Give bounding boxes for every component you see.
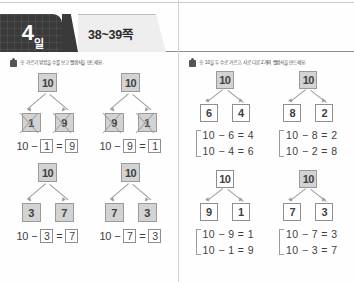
equation-row: 10 − 7 = 3 [100,229,162,243]
bond-top-node: 10 [299,170,317,188]
bullet-icon [189,60,196,67]
top-rule [0,2,354,3]
equation-line[interactable]: 10 − 1 = 9 [203,242,254,258]
eq-result-box[interactable]: 9 [65,139,78,153]
equation-line[interactable]: 10 − 6 = 4 [203,127,254,143]
eq-subtrahend-box[interactable]: 9 [123,139,136,153]
number-bond-tree: 10 7 3 [270,170,346,224]
left-instruction: ※ 가르기 방법을 수를 보고 뺄셈식을 만드세요. [0,52,178,67]
workbook-page: 4 일 38~39쪽 ※ 가르기 방법을 수를 보고 뺄셈식을 만드세요. 10 [0,0,354,282]
equation-line[interactable]: 10 − 9 = 1 [203,226,254,242]
bond-right-node[interactable]: 2 [315,104,333,122]
bond-branch-right [49,184,68,200]
eq-subtrahend-box[interactable]: 1 [40,139,53,153]
problem-group: 10 8 2 10 − 8 = 2 10 − 2 = 8 [267,71,351,160]
equation-pair: 10 − 6 = 4 10 − 4 = 6 [196,127,254,160]
equation-row: 10 − 9 = 1 [100,139,162,153]
number-bond-tree: 10 8 2 [270,71,346,125]
eq-equals: = [138,230,146,242]
eq-subtrahend-box[interactable]: 3 [40,229,53,243]
right-problem-grid: 10 6 4 10 − 6 = 4 10 − 4 = 6 10 [179,67,354,258]
bond-left-node[interactable]: 7 [283,203,301,221]
tab-day-unit: 일 [34,39,44,52]
equation-row: 10 − 3 = 7 [17,229,79,243]
bond-right-node[interactable]: 4 [232,104,250,122]
right-instruction-text: ※ 10을 두 수로 가르고, 서로 다른 2개의 뺄셈식을 만드세요. [199,59,306,67]
bond-left-node: 9 [105,113,124,132]
bond-right-node[interactable]: 3 [315,203,333,221]
equation-line[interactable]: 10 − 3 = 7 [286,242,337,258]
bond-right-node: 1 [138,113,157,132]
bond-top-node: 10 [38,73,57,92]
left-instruction-text: ※ 가르기 방법을 수를 보고 뺄셈식을 만드세요. [20,59,103,67]
tab-page-range[interactable]: 38~39쪽 [78,14,148,52]
left-problem-grid: 10 1 9 10 − [0,67,178,243]
bond-arrow-right-icon [60,197,66,203]
bond-arrow-right-icon [143,107,149,113]
eq-equals: = [55,230,63,242]
eq-minuend: 10 [100,140,112,152]
left-panel: ※ 가르기 방법을 수를 보고 뺄셈식을 만드세요. 10 1 9 [0,52,178,282]
bond-top-node: 10 [216,170,234,188]
tab-day-slant [62,14,78,52]
equation-pair: 10 − 8 = 2 10 − 2 = 8 [279,127,337,160]
eq-result-box[interactable]: 3 [148,229,161,243]
problem-item: 10 7 3 10 − 7 = 3 [89,163,172,243]
number-bond-tree: 10 9 1 [91,73,171,135]
bond-arrow-right-icon [143,197,149,203]
equation-line[interactable]: 10 − 4 = 6 [203,143,254,159]
bullet-icon [10,60,17,67]
bond-left-node[interactable]: 6 [200,104,218,122]
equation-pair: 10 − 7 = 3 10 − 3 = 7 [279,226,337,259]
bond-top-node: 10 [121,163,140,182]
problem-item: 10 1 9 10 − [6,73,89,153]
bond-right-node[interactable]: 1 [232,203,250,221]
problem-item: 10 9 1 10 − [89,73,172,153]
tab-page-range-slant [148,14,166,52]
bond-right-node: 7 [55,203,74,222]
bond-left-node: 3 [22,203,41,222]
bond-arrow-left-icon [27,107,33,113]
eq-operator: − [113,230,121,242]
eq-result-box[interactable]: 1 [148,139,161,153]
bond-branch-right [132,94,151,110]
number-bond-tree: 10 7 3 [91,163,171,225]
bond-top-node: 10 [216,71,234,89]
bond-arrow-left-icon [110,197,116,203]
bond-branch-right [132,184,151,200]
bond-arrow-right-icon [60,107,66,113]
bond-left-node: 7 [105,203,124,222]
bond-left-node[interactable]: 8 [283,104,301,122]
bond-arrow-right-icon [237,98,243,104]
bond-left-node[interactable]: 9 [200,203,218,221]
equation-line[interactable]: 10 − 7 = 3 [286,226,337,242]
eq-operator: − [30,230,38,242]
bond-top-node: 10 [38,163,57,182]
bond-right-node: 3 [138,203,157,222]
right-panel: ※ 10을 두 수로 가르고, 서로 다른 2개의 뺄셈식을 만드세요. 10 … [179,52,354,282]
equation-row: 10 − 1 = 9 [17,139,79,153]
eq-minuend: 10 [17,230,29,242]
equation-line[interactable]: 10 − 2 = 8 [286,143,337,159]
equation-pair: 10 − 9 = 1 10 − 1 = 9 [196,226,254,259]
bond-arrow-left-icon [110,107,116,113]
tab-day[interactable]: 4 일 [0,14,62,52]
eq-equals: = [138,140,146,152]
problem-group: 10 6 4 10 − 6 = 4 10 − 4 = 6 [183,71,267,160]
bond-top-node: 10 [121,73,140,92]
bond-top-node: 10 [299,71,317,89]
eq-subtrahend-box[interactable]: 7 [123,229,136,243]
bond-arrow-left-icon [27,197,33,203]
eq-operator: − [30,140,38,152]
bond-arrow-left-icon [205,98,211,104]
eq-operator: − [113,140,121,152]
problem-item: 10 3 7 10 − 3 = 7 [6,163,89,243]
equation-line[interactable]: 10 − 8 = 2 [286,127,337,143]
number-bond-tree: 10 9 1 [187,170,263,224]
number-bond-tree: 10 1 9 [8,73,88,135]
eq-result-box[interactable]: 7 [65,229,78,243]
number-bond-tree: 10 3 7 [8,163,88,225]
right-instruction: ※ 10을 두 수로 가르고, 서로 다른 2개의 뺄셈식을 만드세요. [179,52,354,67]
bond-left-node: 1 [22,113,41,132]
eq-equals: = [55,140,63,152]
